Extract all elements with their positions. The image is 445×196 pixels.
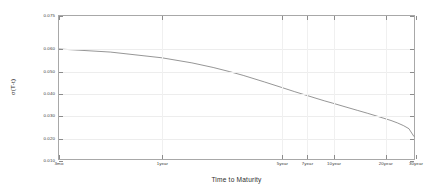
- grid-line-horizontal: [59, 94, 414, 95]
- x-axis-tick: [307, 155, 308, 159]
- grid-line-vertical: [162, 16, 163, 159]
- x-axis-title: Time to Maturity: [58, 176, 415, 183]
- y-axis-tick-right: [410, 116, 414, 117]
- y-axis-tick-label: 0.040: [44, 92, 56, 96]
- x-axis-tick-label: 10year: [327, 162, 341, 166]
- x-axis-tick-label: 1year: [157, 162, 168, 166]
- curve-path: [59, 49, 414, 137]
- x-axis-tick-label: 30year: [409, 162, 423, 166]
- y-axis-tick-label: 0.030: [44, 114, 56, 118]
- x-axis-tick: [282, 155, 283, 159]
- x-axis-tick: [59, 155, 60, 159]
- y-axis-tick: [59, 139, 63, 140]
- x-axis-tick-top: [334, 16, 335, 20]
- grid-line-horizontal: [59, 116, 414, 117]
- grid-line-vertical: [282, 16, 283, 159]
- y-axis-tick-label: 0.060: [44, 47, 56, 51]
- y-axis-tick-right: [410, 16, 414, 17]
- x-axis-tick-top: [162, 16, 163, 20]
- y-axis-tick: [59, 72, 63, 73]
- x-axis-tick: [386, 155, 387, 159]
- grid-line-horizontal: [59, 72, 414, 73]
- y-axis-tick-right: [410, 139, 414, 140]
- chart-figure: 0.0100.0200.0300.0400.0500.0600.0753mo1y…: [0, 0, 445, 196]
- grid-line-horizontal: [59, 49, 414, 50]
- y-axis-tick: [59, 94, 63, 95]
- x-axis-tick-label: 5year: [277, 162, 288, 166]
- volatility-curve: [59, 16, 414, 159]
- y-axis-tick: [59, 116, 63, 117]
- grid-line-horizontal: [59, 139, 414, 140]
- x-axis-tick: [162, 155, 163, 159]
- x-axis-tick-top: [386, 16, 387, 20]
- y-axis-tick-label: 0.010: [44, 159, 56, 163]
- grid-line-vertical: [307, 16, 308, 159]
- x-axis-tick-top: [59, 16, 60, 20]
- x-axis-tick: [334, 155, 335, 159]
- x-axis-tick-top: [282, 16, 283, 20]
- y-axis-tick-label: 0.050: [44, 70, 56, 74]
- y-axis-tick-label: 0.020: [44, 136, 56, 140]
- y-axis-tick-right: [410, 94, 414, 95]
- y-axis-title: σ(T-t): [9, 79, 16, 95]
- x-axis-tick-top: [416, 16, 417, 20]
- y-axis-tick-right: [410, 72, 414, 73]
- y-axis-tick: [59, 49, 63, 50]
- grid-line-vertical: [386, 16, 387, 159]
- x-axis-tick: [416, 155, 417, 159]
- x-axis-tick-label: 7year: [302, 162, 313, 166]
- y-axis-tick-label: 0.075: [44, 14, 56, 18]
- x-axis-tick-label: 20year: [379, 162, 393, 166]
- y-axis-tick-right: [410, 49, 414, 50]
- grid-line-vertical: [334, 16, 335, 159]
- x-axis-tick-label: 3mo: [55, 162, 64, 166]
- x-axis-tick-top: [307, 16, 308, 20]
- plot-area: 0.0100.0200.0300.0400.0500.0600.0753mo1y…: [58, 15, 415, 160]
